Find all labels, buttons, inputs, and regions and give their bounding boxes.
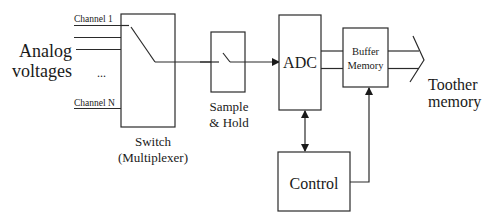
sample-hold-label-line2: & Hold	[209, 115, 249, 130]
channel-1-label: Channel 1	[74, 14, 113, 24]
analog-label-line1: Analog	[19, 41, 72, 61]
adc-label: ADC	[283, 54, 317, 71]
buffer-label-line1: Buffer	[352, 46, 380, 57]
analog-label-line2: voltages	[12, 61, 72, 81]
ellipsis: ...	[97, 66, 106, 80]
adc-block: ADC	[279, 15, 321, 110]
buffer-label-line2: Memory	[347, 60, 384, 71]
sample-hold-block: Sample & Hold	[200, 32, 249, 130]
sample-hold-label-line1: Sample	[210, 99, 249, 114]
data-acquisition-diagram: Analog voltages Channel 1 ... Channel N …	[0, 0, 486, 220]
analog-voltages-label: Analog voltages	[12, 41, 72, 81]
control-block: Control	[278, 152, 350, 211]
buffer-memory-block: Buffer Memory	[343, 28, 388, 87]
output-label: Toother memory	[428, 76, 481, 111]
switch-label-line1: Switch	[135, 134, 172, 149]
buffer-memory-box	[343, 28, 388, 87]
control-label: Control	[290, 175, 339, 192]
multiplexer-block: Switch (Multiplexer)	[118, 14, 188, 165]
output-label-line2: memory	[428, 93, 481, 111]
channel-n-label: Channel N	[74, 98, 115, 108]
multiplexer-box	[121, 14, 175, 127]
output-label-line1: Toother	[428, 76, 478, 93]
output-bus-arrow	[388, 36, 424, 82]
control-to-buffer-arrow	[350, 88, 369, 182]
switch-label-line2: (Multiplexer)	[118, 150, 188, 165]
